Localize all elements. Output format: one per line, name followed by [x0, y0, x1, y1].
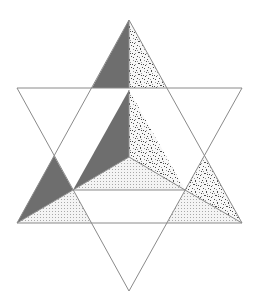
- star-tetrahedron-diagram: [0, 0, 257, 307]
